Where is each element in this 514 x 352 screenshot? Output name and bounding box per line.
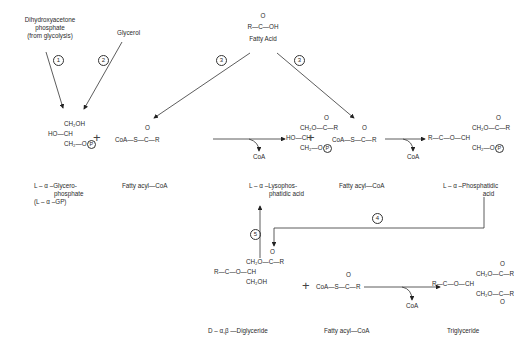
plus-sign-2: + [307, 130, 315, 145]
step-2-badge: 2 [98, 55, 109, 66]
tg-line-3: CH₂O—C—R [432, 290, 514, 298]
glycerophosphate-label: L – α –Glycero- phosphate (L – α –GP) [34, 182, 83, 206]
phosphate-icon: P [323, 144, 332, 153]
triglyceride-structure: O CH₂O—C—R R—C—O—CH CH₂O—C—R O [432, 260, 514, 306]
pa-line-1: CH₂O—C—R [428, 124, 510, 132]
step-3-left-badge: 3 [216, 55, 227, 66]
lpa-label-2: phatidic acid [249, 190, 304, 198]
lysophosphatidic-acid-label: L – α –Lysophos- phatidic acid [249, 182, 304, 198]
triglyceride-label: Triglyceride [447, 327, 479, 335]
acyl1-o: O [115, 124, 159, 132]
coa-byproduct-1: CoA [253, 153, 265, 161]
acyl3-formula: CoA—S—C—R [316, 283, 360, 291]
lpa-label-1: L – α –Lysophos- [249, 182, 304, 190]
dhap-line-3: (from glycolysis) [20, 32, 80, 40]
plus-sign-3: + [302, 278, 310, 293]
fatty-acyl-coa-2: O CoA—S—C—R [332, 124, 376, 144]
fatty-acyl-coa-1: O CoA—S—C—R [115, 124, 159, 144]
gp-line-2: HO—CH [48, 130, 96, 138]
plus-sign-1: + [93, 130, 101, 145]
acyl3-o: O [316, 271, 360, 279]
carbonyl-o: O [243, 12, 283, 20]
diglyceride-label: D – α,β —Diglyceride [208, 327, 268, 335]
gp-line-3: CH₂—OP [48, 140, 96, 149]
lpa-o: O [286, 114, 338, 122]
acyl1-formula: CoA—S—C—R [115, 136, 159, 144]
pa-label-2: acid [433, 190, 508, 198]
step-1-badge: 1 [53, 55, 64, 66]
phosphatidic-acid-structure: O CH₂O—C—R R—C—O—CH CH₂—OP [428, 114, 510, 153]
glycerol-label: Glycerol [117, 29, 140, 37]
dg-o: O [214, 248, 284, 256]
fatty-acyl-coa-1-label: Fatty acyl—CoA [122, 182, 168, 190]
acyl2-formula: CoA—S—C—R [332, 136, 376, 144]
pa-label-1: L – α –Phosphatidic [433, 182, 508, 190]
dhap-line-1: Dihydroxyacetone [20, 16, 80, 24]
dg-line-2: R—C—O—CH [214, 268, 284, 276]
diglyceride-structure: O CH₂O—C—R R—C—O—CH CH₂OH [214, 248, 284, 286]
pa-line-3-text: CH₂—O [472, 144, 495, 151]
pa-o: O [428, 114, 510, 122]
acyl2-o: O [332, 124, 376, 132]
gp-line-1: CH₂OH [48, 120, 96, 128]
step-5-badge: 5 [250, 229, 261, 240]
coa-byproduct-3: CoA [406, 302, 418, 310]
tg-o-bottom: O [432, 298, 514, 306]
pa-line-2: R—C—O—CH [428, 134, 510, 142]
fatty-acyl-coa-3: O CoA—S—C—R [316, 271, 360, 291]
glycerophosphate-structure: CH₂OH HO—CH CH₂—OP [48, 120, 96, 149]
fatty-acid-formula: R—C—OH [243, 23, 283, 31]
gp-label-1: L – α –Glycero- [34, 182, 83, 190]
coa-byproduct-2: CoA [407, 153, 419, 161]
gp-label-2: phosphate [34, 190, 83, 198]
fatty-acid-label: Fatty Acid [243, 35, 283, 43]
dg-line-1: CH₂O—C—R [214, 258, 284, 266]
dhap-line-2: phosphate [20, 24, 80, 32]
tg-line-2: R—C—O—CH [432, 280, 514, 288]
fatty-acyl-coa-3-label: Fatty acyl—CoA [324, 327, 370, 335]
tg-line-1: CH₂O—C—R [432, 270, 514, 278]
lpa-line-3-text: CH₂—O [300, 144, 323, 151]
step-4-badge: 4 [372, 213, 383, 224]
gp-line-3-text: CH₂—O [64, 140, 87, 147]
lpa-line-3: CH₂—OP [286, 144, 338, 153]
phosphate-icon: P [495, 144, 504, 153]
tg-o: O [432, 260, 514, 268]
pa-line-3: CH₂—OP [428, 144, 510, 153]
fatty-acyl-coa-2-label: Fatty acyl—CoA [339, 182, 385, 190]
phosphatidic-acid-label: L – α –Phosphatidic acid [433, 182, 508, 198]
fatty-acid: O R—C—OH Fatty Acid [243, 12, 283, 43]
dg-line-3: CH₂OH [214, 278, 284, 286]
gp-label-3: (L – α –GP) [34, 198, 83, 206]
dhap-label: Dihydroxyacetone phosphate (from glycoly… [20, 16, 80, 40]
step-3-right-badge: 3 [294, 55, 305, 66]
